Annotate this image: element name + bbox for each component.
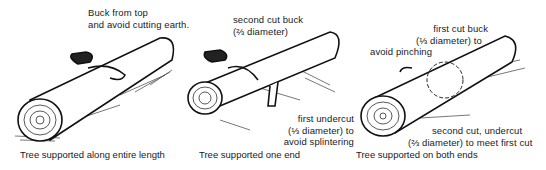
caption-supported-entire-length: Tree supported along entire length (20, 149, 165, 160)
note-first-undercut: first undercut (⅓ diameter) to avoid spl… (252, 113, 354, 148)
note-line: and avoid cutting earth. (88, 19, 189, 31)
note-line: (⅓ diameter) to (370, 35, 482, 47)
note-first-cut-buck: first cut buck (⅓ diameter) to avoid pin… (370, 23, 488, 58)
note-line: (⅔ diameter) (233, 26, 303, 38)
note-second-cut-undercut: second cut, undercut (⅔ diameter) to mee… (405, 125, 532, 148)
note-line: Buck from top (88, 7, 189, 19)
note-line: avoid splintering (252, 136, 354, 148)
note-line: (⅓ diameter) to (252, 125, 354, 137)
note-line: (⅔ diameter) to meet first cut (405, 137, 532, 149)
note-buck-from-top: Buck from top and avoid cutting earth. (88, 7, 189, 30)
note-line: first undercut (252, 113, 354, 125)
note-line: second cut, undercut (405, 125, 532, 137)
note-line: avoid pinching (370, 46, 488, 58)
log-illustration-1 (15, 38, 174, 141)
note-line: first cut buck (370, 23, 488, 35)
caption-supported-both-ends: Tree supported on both ends (356, 149, 478, 160)
caption-supported-one-end: Tree supported one end (199, 149, 300, 160)
note-line: second cut buck (233, 14, 303, 26)
note-second-cut-buck: second cut buck (⅔ diameter) (233, 14, 303, 37)
